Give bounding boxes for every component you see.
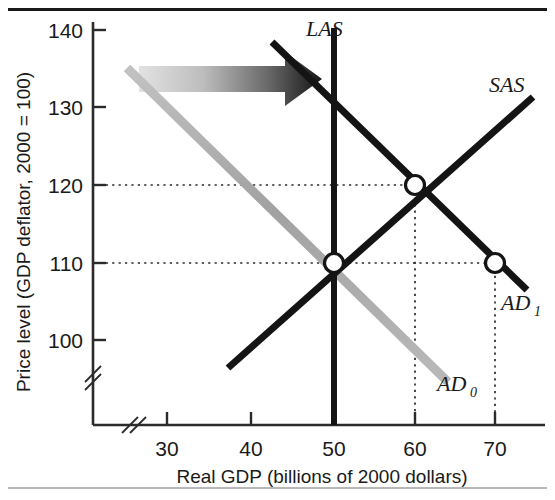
point-initial-equilibrium — [325, 254, 344, 273]
x-tick-label-40: 40 — [239, 437, 262, 460]
figure-container: 140 130 120 110 100 30 40 50 60 70 Price… — [0, 0, 555, 500]
x-tick-label-30: 30 — [155, 437, 178, 460]
x-tick-label-50: 50 — [322, 437, 345, 460]
x-tick-label-60: 60 — [403, 437, 426, 460]
curve-label-ad1-subscript: 1 — [534, 304, 541, 319]
x-tick-labels-group: 30 40 50 60 70 — [155, 437, 506, 460]
y-tick-label-130: 130 — [48, 96, 83, 119]
y-tick-label-140: 140 — [48, 19, 83, 42]
point-ad1-at-70 — [486, 254, 505, 273]
y-tick-label-100: 100 — [48, 329, 83, 352]
curve-label-ad0-group: AD 0 — [435, 371, 477, 400]
curve-label-las: LAS — [305, 16, 343, 41]
curve-labels-group: LAS SAS AD 0 AD 1 — [305, 16, 541, 400]
y-tick-label-110: 110 — [50, 252, 83, 275]
x-axis-title: Real GDP (billions of 2000 dollars) — [176, 466, 467, 487]
curve-label-ad1-group: AD 1 — [499, 290, 541, 319]
y-tick-labels-group: 140 130 120 110 100 — [48, 19, 83, 352]
curve-label-ad0-subscript: 0 — [470, 385, 477, 400]
aggregate-demand-supply-chart: 140 130 120 110 100 30 40 50 60 70 Price… — [0, 0, 555, 500]
curve-ad0-edge — [127, 68, 448, 382]
curve-label-sas: SAS — [489, 72, 524, 97]
curve-label-ad0: AD — [435, 371, 466, 396]
y-axis-title: Price level (GDP deflator, 2000 = 100) — [13, 72, 34, 392]
curve-sas — [228, 97, 533, 368]
x-tick-label-70: 70 — [483, 437, 506, 460]
y-tick-label-120: 120 — [48, 174, 83, 197]
point-new-equilibrium — [406, 176, 425, 195]
curve-label-ad1: AD — [499, 290, 530, 315]
